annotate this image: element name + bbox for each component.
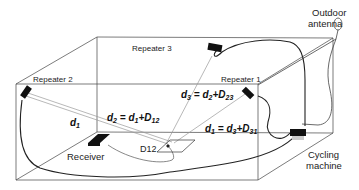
receiver-label: Receiver (67, 151, 105, 162)
target-point (167, 145, 170, 148)
cycling-label-line2: machine (306, 160, 342, 171)
repeater3-device (207, 43, 222, 52)
repeater3-label: Repeater 3 (132, 44, 172, 53)
antenna-mast (336, 30, 338, 39)
repeater2-label: Repeater 2 (33, 75, 73, 84)
cycling-machine-base (292, 136, 304, 140)
cycling-label-line1: Cycling (308, 149, 339, 160)
antenna-label-line1: Outdoor (312, 7, 346, 18)
receiver-base (88, 143, 100, 146)
equation-d2: d2 = d1+D12 (107, 112, 159, 124)
cycling-machine-device (290, 129, 306, 136)
outdoor-antenna (258, 18, 342, 125)
antenna-cable (302, 39, 336, 125)
back-top-edge (97, 37, 333, 38)
equation-d1-label: d1 (70, 117, 80, 129)
signal-paths (26, 56, 248, 162)
repeater2-device (20, 85, 32, 98)
antenna-label-line2: antenna (308, 18, 343, 29)
cable-repeater1 (258, 96, 290, 138)
d12-label: D12 (140, 144, 157, 154)
repeater1-label: Repeater 1 (221, 75, 261, 84)
devices (20, 43, 306, 146)
repeater1-device (242, 87, 255, 100)
diagram: Outdoor antenna Repeater 3 Repeater 2 Re… (0, 0, 359, 190)
equation-d1b: d1 = d3+D31 (205, 123, 257, 135)
equation-d3: d3 = d2+D23 (181, 89, 233, 101)
